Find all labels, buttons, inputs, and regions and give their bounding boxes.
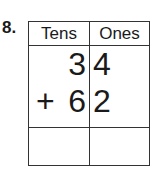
addend2-tens-digit: 6 [68,85,86,117]
answer-tens-cell[interactable] [29,128,90,165]
problem-number: 8. [2,19,16,36]
ones-header-cell: Ones [90,22,149,45]
tens-addends-cell: 3 + 6 [29,46,90,127]
addend1-tens-digit: 3 [68,48,86,80]
ones-addends-cell: 4 2 [90,46,149,127]
addends-row: 3 + 6 4 2 [29,46,149,127]
header-row: Tens Ones [29,22,149,46]
place-value-table: Tens Ones 3 + 6 4 2 [28,21,150,166]
tens-header-cell: Tens [29,22,90,45]
addend1-ones-digit: 4 [93,48,111,80]
plus-operator: + [36,85,55,117]
answer-ones-cell[interactable] [90,128,149,165]
addend2-ones-digit: 2 [93,85,111,117]
tens-header-label: Tens [29,24,89,44]
answer-row [29,127,149,165]
ones-header-label: Ones [90,24,149,44]
